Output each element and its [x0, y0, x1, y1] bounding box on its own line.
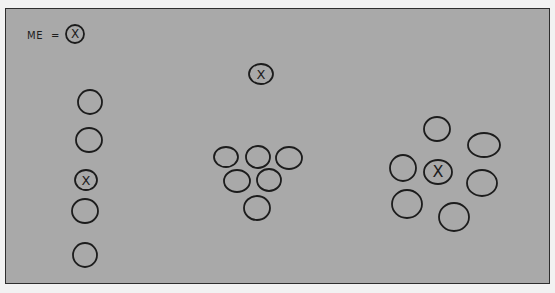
person-circle-icon: [424, 117, 450, 141]
circle-outline: [76, 128, 102, 152]
surrounded-formation: X: [390, 117, 500, 231]
column-formation: X: [72, 90, 102, 267]
circle-outline: [439, 203, 469, 231]
circle-outline: [244, 196, 270, 220]
person-circle-icon: [76, 128, 102, 152]
circle-outline: [214, 147, 238, 167]
legend-equals: =: [51, 30, 60, 41]
circle-outline: [246, 146, 270, 168]
legend-label: ME: [27, 30, 43, 41]
circle-outline: [78, 90, 102, 114]
legend: ME = X: [27, 25, 84, 43]
legend-me-symbol-icon: X: [66, 25, 84, 43]
person-circle-icon: [468, 133, 500, 157]
circle-outline: [424, 117, 450, 141]
apart-from-cluster-formation: X: [214, 64, 302, 220]
person-circle-icon: [244, 196, 270, 220]
diagram-canvas: ME = X XXX: [0, 0, 555, 293]
circle-outline: [468, 133, 500, 157]
person-circle-icon: [276, 147, 302, 169]
x-mark-icon: X: [257, 67, 266, 82]
person-circle-icon: [257, 169, 281, 191]
x-mark-icon: X: [433, 162, 444, 181]
formations: XXX: [72, 64, 500, 267]
legend-circle-icon: X: [66, 25, 84, 43]
person-circle-icon: [390, 155, 416, 181]
circle-outline: [276, 147, 302, 169]
person-circle-icon: [467, 170, 497, 196]
person-circle-icon: [439, 203, 469, 231]
diagram-stage: ME = X XXX: [0, 0, 555, 293]
circle-outline: [72, 199, 98, 223]
x-mark-icon: X: [82, 173, 91, 188]
person-circle-icon: [72, 199, 98, 223]
me-person-icon: X: [249, 64, 273, 84]
circle-outline: [392, 190, 422, 218]
person-circle-icon: [224, 170, 250, 192]
circle-outline: [257, 169, 281, 191]
me-person-icon: X: [424, 160, 452, 184]
circle-outline: [224, 170, 250, 192]
circle-outline: [467, 170, 497, 196]
circle-outline: [73, 243, 97, 267]
person-circle-icon: [78, 90, 102, 114]
person-circle-icon: [392, 190, 422, 218]
x-mark-icon: X: [71, 27, 79, 41]
me-person-icon: X: [75, 170, 97, 190]
person-circle-icon: [214, 147, 238, 167]
person-circle-icon: [73, 243, 97, 267]
person-circle-icon: [246, 146, 270, 168]
circle-outline: [390, 155, 416, 181]
